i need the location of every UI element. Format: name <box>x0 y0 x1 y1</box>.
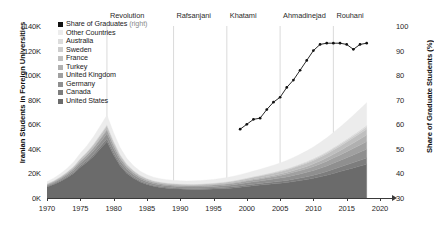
legend-swatch-icon <box>58 99 63 104</box>
legend-label: United States <box>66 97 108 106</box>
x-tick-label: 2010 <box>296 204 330 213</box>
y-tick-label-right: 100 <box>396 22 422 31</box>
x-tick <box>214 198 215 201</box>
legend-swatch-icon <box>58 90 63 95</box>
y-axis-right-title: Share of Graduate Students (%) <box>425 9 434 185</box>
x-tick <box>147 198 148 201</box>
x-tick-label: 1995 <box>197 204 231 213</box>
x-tick-label: 2005 <box>263 204 297 213</box>
era-label-khatami: Khatami <box>230 11 257 20</box>
y-tick-label-left: 0K <box>15 194 41 203</box>
chart-legend: Share of Graduates (right)Other Countrie… <box>58 20 147 105</box>
era-label-rouhani: Rouhani <box>336 11 363 20</box>
legend-swatch-icon <box>58 30 63 35</box>
y-tick-label-right: 90 <box>396 47 422 56</box>
x-tick <box>47 198 48 201</box>
share-of-graduates-line <box>239 42 368 131</box>
legend-swatch-icon <box>58 73 63 78</box>
y-tick-label-right: 80 <box>396 71 422 80</box>
stacked-areas <box>47 103 367 198</box>
x-tick-label: 2015 <box>330 204 364 213</box>
x-tick <box>280 198 281 201</box>
legend-swatch-icon <box>58 22 63 27</box>
era-label-ahmadinejad: Ahmadinejad <box>283 11 326 20</box>
x-tick <box>247 198 248 201</box>
x-tick <box>80 198 81 201</box>
x-tick <box>180 198 181 201</box>
y-tick-label-right: 30 <box>396 194 422 203</box>
x-tick-label: 1970 <box>30 204 64 213</box>
legend-item: United States <box>58 97 147 106</box>
legend-swatch-icon <box>58 39 63 44</box>
x-tick <box>347 198 348 201</box>
y-tick-label-right: 50 <box>396 145 422 154</box>
y-axis-left-title: Iranian Students in Foreign Universities <box>18 5 27 181</box>
era-label-rafsanjani: Rafsanjani <box>177 11 211 20</box>
legend-swatch-icon <box>58 82 63 87</box>
legend-swatch-icon <box>58 65 63 70</box>
x-tick <box>380 198 381 201</box>
y-tick-label-right: 70 <box>396 96 422 105</box>
y-tick-label-right: 40 <box>396 169 422 178</box>
x-tick <box>114 198 115 201</box>
x-tick <box>313 198 314 201</box>
x-tick-label: 2020 <box>363 204 397 213</box>
x-tick-label: 1985 <box>130 204 164 213</box>
legend-swatch-icon <box>58 47 63 52</box>
y-tick-label-right: 60 <box>396 120 422 129</box>
x-tick-label: 1990 <box>163 204 197 213</box>
legend-swatch-icon <box>58 56 63 61</box>
x-axis-line <box>47 198 394 199</box>
x-tick-label: 2000 <box>230 204 264 213</box>
x-tick-label: 1975 <box>63 204 97 213</box>
x-tick-label: 1980 <box>97 204 131 213</box>
